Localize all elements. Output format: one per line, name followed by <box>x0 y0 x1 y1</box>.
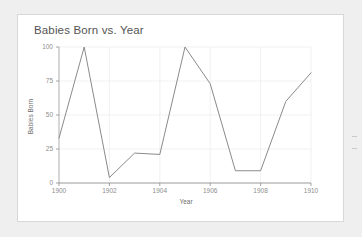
y-tick-label: 0 <box>29 179 53 186</box>
y-tick-label: 75 <box>29 77 53 84</box>
x-tick-label: 1910 <box>296 187 326 194</box>
x-tick-label: 1908 <box>246 187 276 194</box>
y-tick-label: 25 <box>29 145 53 152</box>
plot-area: 0255075100 190019021904190619081910 Babi… <box>18 15 345 223</box>
x-tick-label: 1904 <box>145 187 175 194</box>
chart-card: Babies Born vs. Year 0255075100 19001902… <box>17 14 344 222</box>
edge-mark-lower <box>352 148 357 149</box>
x-tick-label: 1900 <box>44 187 74 194</box>
edge-mark-upper <box>352 136 357 137</box>
x-tick-label: 1906 <box>195 187 225 194</box>
y-axis-title: Babies Born <box>27 92 34 142</box>
data-series-line <box>59 47 311 178</box>
y-tick-label: 100 <box>29 43 53 50</box>
tick-marks <box>56 47 311 186</box>
x-tick-label: 1902 <box>94 187 124 194</box>
gridlines <box>59 47 311 183</box>
x-axis-title: Year <box>146 198 226 205</box>
